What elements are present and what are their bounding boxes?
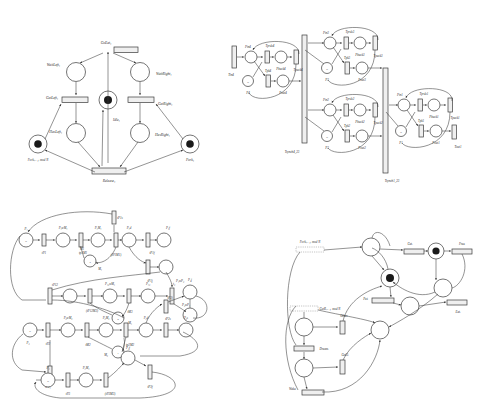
transition-tin4[interactable] [232, 46, 237, 68]
transition-tpack4[interactable] [294, 50, 299, 64]
place-p2wm2[interactable] [61, 323, 75, 337]
place-pback2[interactable] [354, 104, 366, 116]
label-tprdc2: Tprdc2 [346, 97, 355, 101]
label-p1f: P₁f [165, 226, 171, 230]
transition-tp1s[interactable] [112, 211, 116, 224]
place-pout2[interactable] [356, 130, 368, 142]
place-p1f[interactable] [157, 233, 171, 247]
transition-tp1m1[interactable] [79, 233, 83, 247]
transition-dream[interactable] [294, 346, 314, 351]
place-mid[interactable] [401, 297, 419, 315]
place-pback4[interactable] [275, 51, 287, 63]
place-hasleft[interactable] [67, 124, 86, 143]
transition-tout1[interactable] [452, 125, 457, 139]
transition-tp3[interactable] [66, 373, 70, 387]
transition-tpack2[interactable] [373, 103, 378, 117]
transition-get[interactable] [404, 249, 424, 254]
transition-tp2j[interactable] [164, 300, 168, 313]
transition-tprdc4[interactable] [265, 51, 270, 63]
label-p2wp1: P₂wP₁ [181, 303, 190, 307]
token-eat [386, 274, 394, 282]
place-p3f[interactable] [121, 351, 135, 365]
place-other[interactable] [295, 318, 313, 336]
place-p3m3[interactable] [79, 373, 93, 387]
place-pin1[interactable] [398, 99, 410, 111]
place-p1wm1[interactable] [56, 233, 70, 247]
place-dream[interactable] [295, 359, 313, 377]
place-waitright[interactable] [131, 63, 150, 82]
place-p2m2[interactable] [99, 323, 113, 337]
place-p1m1[interactable] [91, 233, 105, 247]
transition-tprdc2[interactable] [344, 104, 349, 116]
label-tout1: Tout1 [455, 145, 462, 149]
label-waitright: WaitRight₁ [156, 72, 172, 76]
place-p2s[interactable] [179, 323, 193, 337]
place-pin2[interactable] [324, 104, 336, 116]
place-top[interactable] [362, 238, 380, 256]
transition-tp1f[interactable] [146, 233, 150, 247]
transition-tp2[interactable] [46, 323, 50, 337]
transition-free[interactable] [452, 249, 472, 254]
box-getr [290, 306, 318, 311]
transition-getright[interactable] [128, 97, 154, 103]
label-tprdc1: Tprdc1 [420, 92, 429, 96]
place-waitleft[interactable] [67, 63, 86, 82]
transition-tp2s[interactable] [164, 323, 168, 337]
figure-canvas: GoEat₁ WaitLeft₁ WaitRight₁ GetLeft₁ Get… [0, 0, 483, 414]
transition-tp12m3[interactable] [88, 289, 92, 303]
place-right-low[interactable] [371, 321, 389, 339]
transition-getleft[interactable] [62, 97, 88, 103]
transition-tp3f[interactable] [148, 365, 152, 379]
place-hasright[interactable] [131, 124, 150, 143]
transition-tpack3[interactable] [373, 36, 378, 50]
place-right[interactable] [434, 279, 452, 297]
transition-other[interactable] [340, 321, 345, 334]
transition-put[interactable] [372, 298, 394, 303]
transition-tp1j[interactable] [146, 260, 150, 274]
place-p1wp2[interactable] [159, 260, 173, 274]
transition-goeat[interactable] [114, 47, 138, 53]
transition-tprdc3[interactable] [344, 37, 349, 49]
label-pback1: Pback1 [428, 115, 439, 119]
place-p2j[interactable] [183, 285, 197, 299]
place-p12wm3[interactable] [103, 289, 117, 303]
place-pin3[interactable] [324, 37, 336, 49]
transition-tpk1[interactable] [419, 125, 424, 137]
token-fork-left [34, 140, 42, 148]
diagram-manufacturing: N P₁ tP1 P₁wM₁ tp1M1 P₁M₁ (tP1M1) 3 M₁ M… [11, 211, 207, 398]
transition-geto[interactable] [340, 360, 345, 374]
label-m2: M₂ [103, 353, 108, 357]
transition-tp12b[interactable] [127, 289, 131, 303]
transition-wake[interactable] [302, 390, 324, 395]
transition-release[interactable] [92, 168, 126, 174]
label-pin4: Pin4 [244, 45, 251, 49]
transition-sync1[interactable] [383, 68, 388, 173]
transition-tpk2[interactable] [345, 130, 350, 142]
label-p2j: P₂j [187, 278, 192, 282]
place-pout1[interactable] [430, 125, 442, 137]
place-p12[interactable] [141, 289, 155, 303]
label-tp1: tP1 [42, 251, 47, 255]
label-p12: P₁₂ [145, 282, 150, 286]
label-getleft: GetLeft₁ [46, 96, 59, 100]
transition-tp1[interactable] [42, 234, 46, 246]
label-m1: M₁ [97, 267, 102, 271]
transition-tpk3[interactable] [345, 62, 350, 74]
place-pback3[interactable] [354, 37, 366, 49]
transition-tp2m2[interactable] [85, 323, 89, 337]
transition-tprdc1[interactable] [418, 99, 423, 111]
transition-tp12[interactable] [48, 288, 52, 304]
place-pout3[interactable] [356, 62, 368, 74]
place-pback1[interactable] [428, 99, 440, 111]
transition-eat[interactable] [447, 300, 467, 305]
place-pin4[interactable] [245, 51, 257, 63]
place-pout4[interactable] [277, 75, 289, 87]
transition-tp1m1b[interactable] [114, 233, 118, 247]
place-p2d[interactable] [139, 323, 153, 337]
transition-tpk4[interactable] [266, 75, 271, 87]
transition-tp3m3[interactable] [104, 373, 108, 387]
transition-tp2m2b[interactable] [124, 323, 128, 337]
label-tm2: tM2 [85, 343, 91, 347]
place-p1d[interactable] [122, 233, 136, 247]
label-tpack1: Tpack1 [450, 116, 460, 120]
